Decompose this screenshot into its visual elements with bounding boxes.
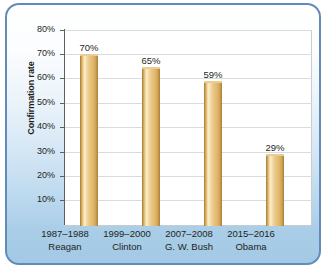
bar-value-reagan: 70%	[68, 42, 110, 53]
y-tick-label: 60%	[37, 72, 55, 82]
y-axis-title: Confirmation rate	[26, 42, 36, 154]
x-category-years: 2015–2016	[213, 228, 289, 241]
y-tick-50: 50%	[59, 103, 65, 104]
tick-mark	[60, 176, 65, 177]
gridline	[64, 30, 312, 31]
tick-mark	[60, 54, 65, 55]
y-tick-60: 60%	[59, 78, 65, 79]
y-tick-label: 10%	[37, 194, 55, 204]
bar-cap	[204, 81, 222, 83]
x-category-obama: 2015–2016 Obama	[213, 228, 289, 253]
bar-gw-bush[interactable]	[204, 82, 222, 226]
gridline	[64, 78, 312, 79]
bar-cap	[266, 154, 284, 156]
y-tick-80: 80%	[59, 30, 65, 31]
gridline	[64, 103, 312, 104]
x-category-name: Obama	[213, 241, 289, 254]
y-tick-label: 20%	[37, 170, 55, 180]
gridline	[64, 54, 312, 55]
bar-value-clinton: 65%	[130, 55, 172, 66]
y-tick-label: 30%	[37, 146, 55, 156]
tick-mark	[60, 103, 65, 104]
bar-cap	[142, 67, 160, 69]
y-tick-label: 80%	[37, 24, 55, 34]
tick-mark	[60, 78, 65, 79]
chart-figure: Confirmation rate 80% 70%	[0, 0, 330, 272]
y-tick-10: 10%	[59, 200, 65, 201]
bar-value-gw-bush: 59%	[192, 69, 234, 80]
y-tick-40: 40%	[59, 127, 65, 128]
y-tick-label: 50%	[37, 97, 55, 107]
gridline	[64, 127, 312, 128]
y-tick-70: 70%	[59, 54, 65, 55]
bar-reagan[interactable]	[80, 55, 98, 226]
bar-clinton[interactable]	[142, 68, 160, 226]
chart-panel: Confirmation rate 80% 70%	[5, 3, 321, 265]
y-tick-label: 40%	[37, 121, 55, 131]
y-tick-20: 20%	[59, 176, 65, 177]
bar-value-obama: 29%	[254, 142, 296, 153]
y-tick-30: 30%	[59, 152, 65, 153]
plot-area: 80% 70% 60% 50% 40% 30%	[59, 30, 312, 226]
y-tick-label: 70%	[37, 48, 55, 58]
bar-obama[interactable]	[266, 155, 284, 226]
bar-cap	[80, 54, 98, 56]
tick-mark	[60, 200, 65, 201]
tick-mark	[60, 30, 65, 31]
tick-mark	[60, 127, 65, 128]
tick-mark	[60, 152, 65, 153]
